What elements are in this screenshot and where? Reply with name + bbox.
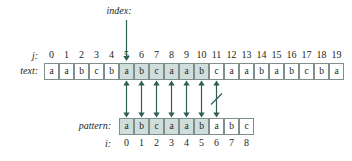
text-index-number: 14: [254, 50, 269, 60]
text-cell: b: [134, 63, 149, 80]
mismatch-slash: [211, 94, 222, 105]
text-cell: c: [89, 63, 104, 80]
text-cell: a: [224, 63, 239, 80]
text-index-row-label: j:: [0, 51, 38, 61]
text-index-number: 8: [164, 50, 179, 60]
match-arrow: [138, 81, 144, 118]
text-index-number: 4: [104, 50, 119, 60]
text-cell: a: [179, 63, 194, 80]
text-cell: b: [194, 63, 209, 80]
text-index-number: 17: [299, 50, 314, 60]
text-cell: b: [284, 63, 299, 80]
string-matching-diagram: index: j: text: pattern: i: 012345678910…: [0, 0, 352, 161]
text-index-number: 15: [269, 50, 284, 60]
text-index-number: 10: [194, 50, 209, 60]
text-cell: a: [44, 63, 59, 80]
pattern-index-number: 2: [149, 138, 164, 148]
text-index-number: 6: [134, 50, 149, 60]
pattern-index-row-label: i:: [0, 139, 111, 149]
text-index-number: 11: [209, 50, 224, 60]
text-index-number: 18: [314, 50, 329, 60]
text-row-label: text:: [0, 66, 38, 76]
pattern-cell: c: [149, 118, 164, 135]
match-arrow: [153, 81, 159, 118]
text-cell: a: [239, 63, 254, 80]
pattern-cell: c: [239, 118, 254, 135]
text-cell: a: [164, 63, 179, 80]
text-cell: b: [104, 63, 119, 80]
text-index-number: 2: [74, 50, 89, 60]
text-index-number: 5: [119, 50, 134, 60]
text-cell: b: [254, 63, 269, 80]
pattern-cell: a: [119, 118, 134, 135]
text-index-number: 16: [284, 50, 299, 60]
pattern-index-number: 0: [119, 138, 134, 148]
match-arrow: [168, 81, 174, 118]
pattern-index-number: 5: [194, 138, 209, 148]
pattern-cell: b: [224, 118, 239, 135]
pattern-index-number: 7: [224, 138, 239, 148]
pattern-index-number: 3: [164, 138, 179, 148]
text-cell: a: [119, 63, 134, 80]
text-cell: c: [209, 63, 224, 80]
pattern-index-number: 4: [179, 138, 194, 148]
text-index-number: 9: [179, 50, 194, 60]
text-cell: a: [59, 63, 74, 80]
text-index-number: 3: [89, 50, 104, 60]
pattern-index-number: 1: [134, 138, 149, 148]
text-cell: b: [74, 63, 89, 80]
pattern-cell: a: [164, 118, 179, 135]
pattern-cell: a: [209, 118, 224, 135]
text-cell: c: [299, 63, 314, 80]
text-index-number: 13: [239, 50, 254, 60]
text-index-number: 1: [59, 50, 74, 60]
text-cell: a: [329, 63, 344, 80]
text-index-number: 0: [44, 50, 59, 60]
text-cell: b: [314, 63, 329, 80]
index-pointer-label: index:: [107, 6, 132, 16]
comparison-arrows-layer: [0, 0, 352, 161]
mismatch-arrow: [211, 81, 222, 118]
pattern-row-label: pattern:: [0, 121, 111, 131]
pattern-index-number: 8: [239, 138, 254, 148]
pattern-index-number: 6: [209, 138, 224, 148]
match-arrow: [183, 81, 189, 118]
text-index-number: 19: [329, 50, 344, 60]
pattern-cell: b: [134, 118, 149, 135]
text-cell: a: [269, 63, 284, 80]
text-index-number: 12: [224, 50, 239, 60]
match-arrow: [123, 81, 129, 118]
pattern-cell: a: [179, 118, 194, 135]
match-arrow: [198, 81, 204, 118]
text-cell: c: [149, 63, 164, 80]
text-index-number: 7: [149, 50, 164, 60]
pattern-cell: b: [194, 118, 209, 135]
